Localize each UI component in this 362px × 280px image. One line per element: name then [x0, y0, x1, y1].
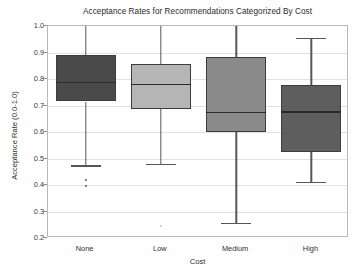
box-plot-figure: Acceptance Rates for Recommendations Cat…: [0, 0, 362, 280]
y-axis-tick-label: 0.9: [18, 47, 44, 56]
upper-whisker-cap: [296, 38, 326, 40]
y-axis-tick-label: 0.5: [18, 153, 44, 162]
lower-whisker-cap: [146, 164, 176, 166]
plot-area: [47, 25, 348, 237]
box-rect[interactable]: [206, 57, 266, 133]
lower-whisker-line: [160, 109, 161, 164]
outlier-point[interactable]: [85, 185, 87, 187]
x-axis-tick-label: None: [76, 244, 94, 253]
upper-whisker-line: [235, 26, 236, 57]
box-rect[interactable]: [56, 55, 116, 101]
y-axis-tick-label: 0.4: [18, 180, 44, 189]
box-plot-group[interactable]: [123, 26, 198, 236]
lower-whisker-line: [311, 152, 312, 181]
upper-whisker-line: [85, 26, 86, 55]
median-line: [56, 82, 116, 84]
outlier-point[interactable]: [85, 179, 87, 181]
y-axis-tick-label: 0.8: [18, 74, 44, 83]
box-plot-group[interactable]: [274, 26, 349, 236]
y-axis-tick-label: 0.6: [18, 127, 44, 136]
x-axis-tick-label: Medium: [222, 244, 248, 253]
lower-whisker-line: [85, 102, 86, 166]
outlier-point[interactable]: [160, 225, 162, 227]
median-line: [206, 112, 266, 114]
y-axis-tick-mark: [43, 237, 47, 238]
y-axis-tick-label: 1.0: [18, 21, 44, 30]
lower-whisker-line: [235, 132, 236, 223]
upper-whisker-line: [160, 26, 161, 64]
box-rect[interactable]: [281, 85, 341, 152]
y-axis-tick-label: 0.2: [18, 233, 44, 242]
lower-whisker-cap: [71, 165, 101, 167]
lower-whisker-cap: [296, 182, 326, 184]
chart-title: Acceptance Rates for Recommendations Cat…: [47, 7, 348, 16]
y-axis-tick-label: 0.7: [18, 100, 44, 109]
upper-whisker-line: [311, 38, 312, 85]
box-rect[interactable]: [131, 64, 191, 109]
lower-whisker-cap: [221, 223, 251, 225]
box-plot-group[interactable]: [48, 26, 123, 236]
x-axis-tick-label: Low: [153, 244, 167, 253]
x-axis-tick-label: High: [303, 244, 318, 253]
median-line: [131, 84, 191, 86]
box-plot-group[interactable]: [199, 26, 274, 236]
y-axis-tick-label: 0.3: [18, 206, 44, 215]
x-axis-label: Cost: [47, 257, 348, 266]
median-line: [281, 111, 341, 113]
